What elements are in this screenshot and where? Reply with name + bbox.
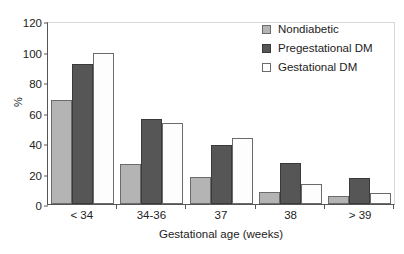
legend-item: Gestational DM [262, 61, 373, 73]
y-axis-tick-mark [44, 84, 48, 85]
bar-chart: % 020406080100120 < 3434-363738> 39 Gest… [0, 0, 404, 254]
legend-swatch-nondiabetic [262, 25, 271, 34]
bar [349, 178, 370, 204]
y-axis-tick-mark [44, 175, 48, 176]
y-axis-tick-mark [44, 206, 48, 207]
y-axis-title: % [12, 90, 24, 114]
legend-label: Nondiabetic [278, 23, 339, 35]
x-axis-tick-label: 38 [256, 209, 326, 221]
bar-group [186, 23, 255, 204]
y-axis-tick-mark [44, 53, 48, 54]
x-axis-tick-label: 37 [186, 209, 256, 221]
bar [301, 184, 322, 204]
legend-label: Gestational DM [278, 61, 357, 73]
bar [120, 164, 141, 204]
y-axis-tick-mark [44, 145, 48, 146]
y-axis-tick-mark [44, 114, 48, 115]
bar [232, 138, 253, 204]
bar [162, 123, 183, 204]
bar [328, 196, 349, 204]
x-axis-title: Gestational age (weeks) [47, 228, 395, 240]
bar [51, 100, 72, 204]
bar-group [117, 23, 186, 204]
x-axis-tick-label: 34-36 [117, 209, 187, 221]
legend-swatch-pregestational-dm [262, 44, 271, 53]
x-axis-tick-label: > 39 [325, 209, 395, 221]
legend-item: Pregestational DM [262, 42, 373, 54]
bar [141, 119, 162, 204]
bar [370, 193, 391, 204]
bar [211, 145, 232, 204]
bar-group [48, 23, 117, 204]
bar [93, 53, 114, 204]
x-axis-tick-label: < 34 [47, 209, 117, 221]
x-axis-tick-labels: < 3434-363738> 39 [47, 209, 395, 221]
bar [280, 163, 301, 204]
bar [190, 177, 211, 204]
legend-swatch-gestational-dm [262, 63, 271, 72]
legend-label: Pregestational DM [278, 42, 373, 54]
chart-legend: NondiabeticPregestational DMGestational … [262, 23, 373, 73]
bar [259, 192, 280, 204]
bar [72, 64, 93, 204]
y-axis-tick-mark [44, 23, 48, 24]
legend-item: Nondiabetic [262, 23, 373, 35]
